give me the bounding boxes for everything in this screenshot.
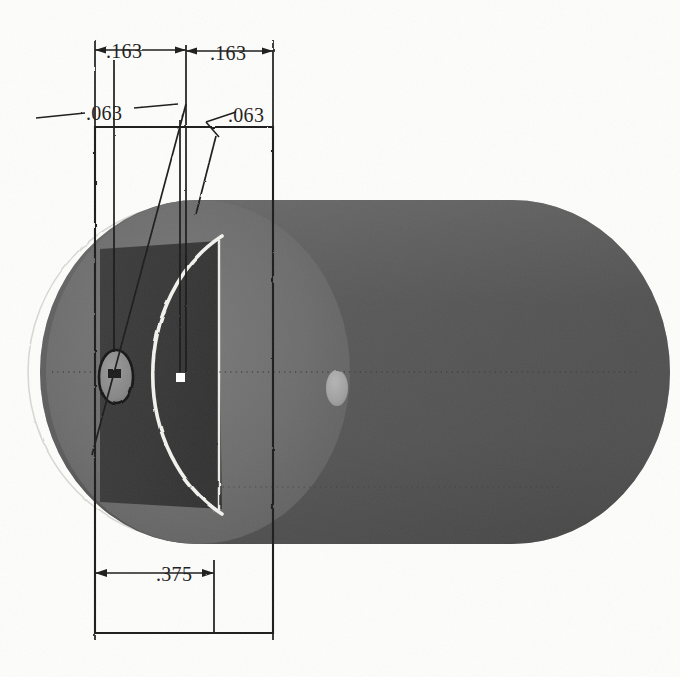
leader-063-left [36,113,85,118]
leader-063-left-tail [134,104,178,108]
far-hole [326,370,348,406]
dimension-063-right: .063 [228,104,264,126]
cad-drawing: .163 .163 .063 .063 .375 [0,0,680,677]
square-marker [176,373,185,382]
dimension-375: .375 [156,563,192,585]
near-hole [99,350,133,404]
cad-drawing-canvas: .163 .163 .063 .063 .375 [0,0,680,677]
dimension-line-375 [95,569,214,577]
dimension-163-left: .163 [106,40,142,62]
dimension-163-right: .163 [210,42,246,64]
solid-model [28,200,670,544]
dimension-063-left: .063 [86,102,122,124]
